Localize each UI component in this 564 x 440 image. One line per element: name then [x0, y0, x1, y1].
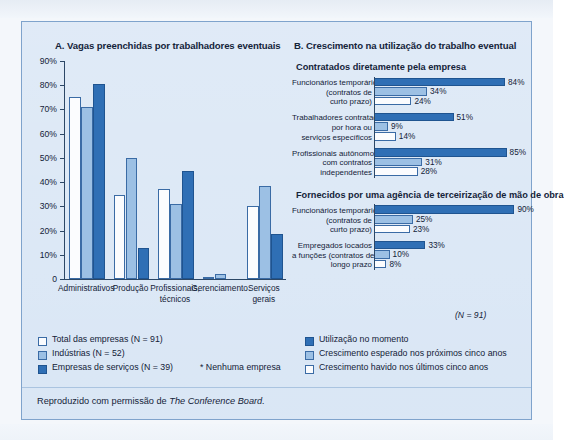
chart-b-legend-item: Utilização no momento — [305, 334, 535, 348]
chart-b-bar — [374, 205, 514, 214]
chart-b-bar-value: 51% — [457, 112, 473, 121]
chart-a-y-tick-label: 0 — [22, 274, 57, 284]
chart-b-bar — [374, 215, 413, 224]
chart-a-footnote: * Nenhuma empresa — [200, 362, 281, 372]
figure-caption: Reproduzido com permissão de The Confere… — [37, 396, 265, 406]
chart-b-bar — [374, 158, 422, 167]
chart-b-legend-label: Crescimento esperado nos próximos cinco … — [319, 348, 507, 358]
chart-a-bar — [215, 274, 227, 279]
chart-b-bar-label: Funcionários temporários — [292, 205, 372, 214]
chart-a-legend-label: Empresas de serviços (N = 39) — [52, 362, 173, 372]
chart-a-y-tick-mark — [60, 255, 64, 256]
chart-a-bar — [247, 206, 259, 279]
chart-b-legend-item: Crescimento esperado nos próximos cinco … — [305, 348, 535, 362]
chart-a-category-label: Serviçosgerais — [236, 283, 292, 304]
chart-b-bar-value: 31% — [425, 157, 441, 166]
chart-b-bar-label: independentes — [292, 167, 372, 176]
chart-b-legend-label: Crescimento havido nos últimos cinco ano… — [319, 362, 488, 372]
chart-a-y-tick-mark — [60, 182, 64, 183]
legend-swatch-icon — [305, 337, 314, 346]
chart-b-baseline — [374, 204, 375, 270]
chart-b-title: B. Crescimento na utilização do trabalho… — [294, 40, 516, 51]
chart-b-bar-label: serviços específicos — [292, 132, 372, 141]
chart-b-bar — [374, 87, 427, 96]
chart-a-y-tick-label: 60% — [22, 129, 57, 139]
legend-swatch-icon — [38, 337, 47, 346]
chart-b-bar-label: Empregados locados — [292, 241, 372, 250]
chart-a-legend-label: Total das empresas (N = 91) — [52, 334, 163, 344]
chart-b-bar-label: (contratos de — [292, 87, 372, 96]
chart-b-bar-label: curto prazo) — [292, 97, 372, 106]
chart-a-y-tick-label: 40% — [22, 177, 57, 187]
chart-a-bar — [138, 248, 150, 279]
chart-a-title: A. Vagas preenchidas por trabalhadores e… — [55, 40, 281, 51]
chart-b-bar-value: 24% — [414, 96, 430, 105]
chart-b-plot: Contratados diretamente pela empresaFunc… — [292, 62, 532, 312]
caption-source: The Conference Board. — [169, 396, 265, 406]
chart-b-bar-label: por hora ou — [292, 122, 372, 131]
chart-b-bar-value: 28% — [421, 167, 437, 176]
chart-a-y-tick-label: 30% — [22, 201, 57, 211]
chart-b-bar — [374, 250, 390, 259]
chart-b-legend-label: Utilização no momento — [319, 334, 408, 344]
caption-prefix: Reproduzido com permissão de — [37, 396, 169, 406]
chart-b-bar-label: Profissionais autônomos — [292, 148, 372, 157]
chart-a-y-axis — [64, 61, 65, 279]
chart-a-bar — [114, 195, 126, 279]
paper-edge-top — [0, 0, 553, 18]
chart-a-y-tick-label: 20% — [22, 226, 57, 236]
legend-swatch-icon — [38, 351, 47, 360]
chart-b-bar-label: curto prazo) — [292, 225, 372, 234]
chart-a-y-tick-mark — [60, 61, 64, 62]
chart-b-bar-value: 9% — [391, 122, 403, 131]
chart-b-bar-value: 25% — [416, 215, 432, 224]
caption-divider — [22, 387, 531, 388]
chart-b-sample-note: (N = 91) — [455, 310, 486, 320]
chart-b-bar-label: com contratos — [292, 158, 372, 167]
chart-a-bar — [93, 84, 105, 279]
chart-b-bar — [374, 78, 505, 87]
chart-b-bar — [374, 167, 418, 176]
chart-b-section-heading: Fornecidos por uma agência de terceiriza… — [296, 190, 564, 200]
chart-a-y-tick-label: 90% — [22, 56, 57, 66]
chart-b-bar-label: Trabalhadores contratados — [292, 113, 372, 122]
chart-b-bar — [374, 113, 454, 122]
chart-a-legend-item: Empresas de serviços (N = 39)* Nenhuma e… — [38, 362, 288, 376]
chart-b-bar-value: 23% — [413, 224, 429, 233]
chart-b-bar-value: 90% — [517, 205, 533, 214]
chart-a-bar — [126, 158, 138, 279]
chart-b-bar — [374, 225, 410, 234]
chart-b-baseline — [374, 77, 375, 178]
chart-a-y-tick-mark — [60, 231, 64, 232]
chart-a-legend-label: Indústrias (N = 52) — [52, 348, 125, 358]
chart-a-y-tick-mark — [60, 85, 64, 86]
chart-a-y-tick-label: 70% — [22, 104, 57, 114]
chart-a-y-tick-mark — [60, 206, 64, 207]
legend-swatch-icon — [305, 365, 314, 374]
chart-a-bar — [271, 234, 283, 279]
chart-a-y-tick-mark — [60, 109, 64, 110]
chart-a-bar — [158, 189, 170, 279]
chart-b-bar-label: a funções (contratos de — [292, 250, 372, 259]
chart-b-legend: Utilização no momentoCrescimento esperad… — [305, 334, 535, 376]
chart-a-legend-item: Total das empresas (N = 91) — [38, 334, 288, 348]
chart-b-bar-value: 84% — [508, 77, 524, 86]
chart-b-bar-label: longo prazo — [292, 260, 372, 269]
chart-a-bar — [259, 186, 271, 279]
chart-b-bar-value: 10% — [393, 250, 409, 259]
chart-b-bar-label: Funcionários temporários — [292, 78, 372, 87]
chart-b-bar-label: (contratos de — [292, 215, 372, 224]
chart-b-legend-item: Crescimento havido nos últimos cinco ano… — [305, 362, 535, 376]
chart-a-y-tick-mark — [60, 134, 64, 135]
legend-swatch-icon — [305, 351, 314, 360]
chart-a-plot: 010%20%30%40%50%60%70%80%90%Administrati… — [22, 57, 290, 307]
chart-b-bar — [374, 148, 507, 157]
chart-b-bar-value: 33% — [428, 240, 444, 249]
chart-a-bar — [170, 204, 182, 279]
chart-a-legend-item: Indústrias (N = 52) — [38, 348, 288, 362]
chart-a-bar — [69, 97, 81, 279]
chart-b-bar-value: 14% — [399, 132, 415, 141]
chart-a-y-tick-mark — [60, 279, 64, 280]
chart-b-bar — [374, 122, 388, 131]
